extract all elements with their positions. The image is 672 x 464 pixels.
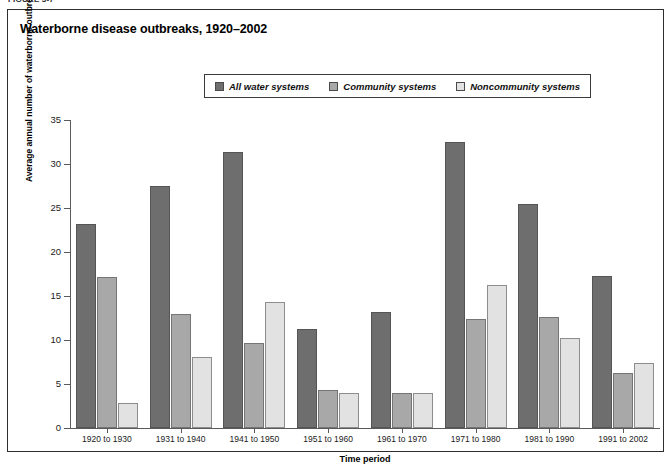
bar bbox=[171, 314, 191, 428]
bar-group bbox=[223, 120, 285, 428]
y-axis-tick: 30 bbox=[64, 164, 70, 165]
bar-group bbox=[297, 120, 359, 428]
bar bbox=[518, 204, 538, 428]
y-axis-tick: 10 bbox=[64, 340, 70, 341]
bar bbox=[539, 317, 559, 428]
x-axis-tick bbox=[549, 429, 550, 433]
x-axis-tick bbox=[623, 429, 624, 433]
y-axis-tick-label: 25 bbox=[50, 202, 61, 213]
bar bbox=[371, 312, 391, 428]
bar bbox=[97, 277, 117, 428]
bar bbox=[560, 338, 580, 428]
x-axis-line bbox=[70, 428, 660, 429]
x-axis-tick bbox=[254, 429, 255, 433]
bar-group bbox=[76, 120, 138, 428]
bar bbox=[392, 393, 412, 428]
y-axis-title: Average annual number of waterborne outb… bbox=[24, 0, 34, 182]
x-axis-category-label: 1941 to 1950 bbox=[218, 434, 292, 444]
y-axis-tick: 0 bbox=[64, 428, 70, 429]
figure-frame: Waterborne disease outbreaks, 1920–2002 … bbox=[7, 9, 664, 452]
y-axis-tick-label: 10 bbox=[50, 334, 61, 345]
x-axis-category-label: 1961 to 1970 bbox=[365, 434, 439, 444]
y-axis-tick: 25 bbox=[64, 208, 70, 209]
x-axis-title: Time period bbox=[70, 454, 660, 464]
bar-group bbox=[445, 120, 507, 428]
y-axis-line bbox=[70, 120, 71, 429]
y-axis-tick-label: 35 bbox=[50, 114, 61, 125]
bar bbox=[192, 357, 212, 428]
x-axis-tick bbox=[181, 429, 182, 433]
bar bbox=[445, 142, 465, 428]
legend-item-label: Community systems bbox=[343, 81, 436, 92]
bar bbox=[265, 302, 285, 428]
bar bbox=[613, 373, 633, 428]
bar bbox=[339, 393, 359, 428]
bar bbox=[297, 329, 317, 428]
legend-item: All water systems bbox=[215, 81, 309, 92]
x-axis-tick bbox=[328, 429, 329, 433]
legend-swatch-light bbox=[456, 82, 465, 91]
y-axis-tick: 35 bbox=[64, 120, 70, 121]
legend-swatch-mid bbox=[329, 82, 338, 91]
y-axis-tick-label: 30 bbox=[50, 158, 61, 169]
x-axis-tick bbox=[107, 429, 108, 433]
y-axis-tick-label: 0 bbox=[56, 422, 61, 433]
bar bbox=[466, 319, 486, 428]
x-axis-category-label: 1981 to 1990 bbox=[513, 434, 587, 444]
bar-group bbox=[150, 120, 212, 428]
bar bbox=[150, 186, 170, 428]
x-axis-tick bbox=[476, 429, 477, 433]
x-axis-tick bbox=[402, 429, 403, 433]
bar bbox=[76, 224, 96, 428]
x-axis-category-label: 1931 to 1940 bbox=[144, 434, 218, 444]
legend-item-label: Noncommunity systems bbox=[470, 81, 580, 92]
chart-legend: All water systemsCommunity systemsNoncom… bbox=[204, 74, 591, 98]
x-axis-category-label: 1991 to 2002 bbox=[586, 434, 660, 444]
chart-title: Waterborne disease outbreaks, 1920–2002 bbox=[20, 22, 267, 36]
x-axis-category-label: 1920 to 1930 bbox=[70, 434, 144, 444]
bar bbox=[318, 390, 338, 428]
x-axis-category-label: 1951 to 1960 bbox=[291, 434, 365, 444]
y-axis-tick: 5 bbox=[64, 384, 70, 385]
y-axis-tick: 20 bbox=[64, 252, 70, 253]
legend-swatch-dark bbox=[215, 82, 224, 91]
legend-item: Community systems bbox=[329, 81, 436, 92]
bar bbox=[592, 276, 612, 428]
bar-group bbox=[371, 120, 433, 428]
bar-group bbox=[518, 120, 580, 428]
bar bbox=[487, 285, 507, 428]
y-axis-tick-label: 15 bbox=[50, 290, 61, 301]
bar bbox=[413, 393, 433, 428]
legend-item-label: All water systems bbox=[229, 81, 309, 92]
bar bbox=[244, 343, 264, 428]
y-axis-tick-label: 20 bbox=[50, 246, 61, 257]
bar-group bbox=[592, 120, 654, 428]
legend-item: Noncommunity systems bbox=[456, 81, 580, 92]
plot-area: 05101520253035 1920 to 19301931 to 19401… bbox=[70, 120, 660, 429]
bar bbox=[118, 403, 138, 428]
x-axis-category-label: 1971 to 1980 bbox=[439, 434, 513, 444]
y-axis-tick-label: 5 bbox=[56, 378, 61, 389]
bar bbox=[223, 152, 243, 428]
y-axis-tick: 15 bbox=[64, 296, 70, 297]
bar bbox=[634, 363, 654, 428]
